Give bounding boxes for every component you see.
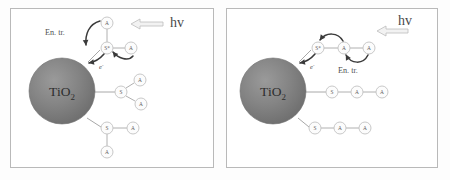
node-a-top: A [101,17,113,29]
energy-transfer-label: En. tr. [45,28,65,37]
node-label: S* [315,45,321,51]
node-s-star: S* [312,42,324,54]
diagram-canvas: TiO2 A S* A A [0,0,450,180]
tio2-label-text: TiO [49,84,71,99]
tio2-label-text: TiO [260,84,282,99]
node-a-bottom-1: A [334,122,346,134]
node-label: A [138,77,142,83]
tio2-label-subscript: 2 [281,92,286,102]
left-panel: TiO2 A S* A A [11,9,214,168]
node-a-mid-upper: A [134,74,146,86]
node-label: A [367,45,371,51]
node-s-mid: S [115,86,127,98]
node-label: A [355,89,359,95]
hv-label: hv [398,13,412,28]
node-a-mid-1: A [351,86,363,98]
node-a-mid-lower: A [135,98,147,110]
node-label: A [380,89,384,95]
node-a-2: A [363,42,375,54]
node-label: A [131,125,135,131]
node-s-bottom: S [309,122,321,134]
node-a-bottom: A [101,146,113,158]
right-panel: TiO2 S* A A S [227,9,438,168]
node-a-1: A [338,42,350,54]
node-a-bottom-2: A [359,122,371,134]
node-label: A [363,125,367,131]
node-a-mid-2: A [376,86,388,98]
node-label: A [105,20,109,26]
node-label: S [331,89,334,95]
node-s-mid: S [326,86,338,98]
node-s-star: S* [101,42,113,54]
node-a-bottom-right: A [127,122,139,134]
figure-container: TiO2 A S* A A [0,0,450,180]
node-a-right: A [125,42,137,54]
node-label: S [106,125,109,131]
node-label: A [338,125,342,131]
tio2-label-subscript: 2 [70,92,75,102]
hv-label: hv [170,15,184,30]
node-label: A [139,101,143,107]
node-s-bottom: S [101,122,113,134]
node-label: A [129,45,133,51]
node-label: A [342,45,346,51]
node-label: S [314,125,317,131]
node-label: S* [104,45,110,51]
node-label: A [105,149,109,155]
energy-transfer-label: En. tr. [338,66,358,75]
node-label: S [120,89,123,95]
